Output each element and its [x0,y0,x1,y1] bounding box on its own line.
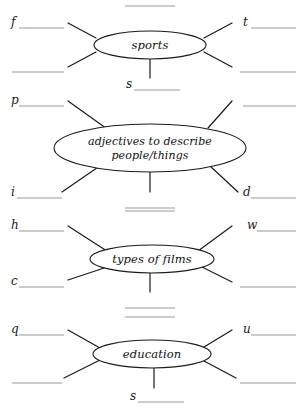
topic-label-adjectives-line2: people/things [111,149,188,162]
hint-letter-top-left: p [11,93,19,107]
spoke-top-left [68,226,110,253]
hint-letter-bottom-right: d [243,185,251,199]
spoke-top-left [68,23,96,38]
hint-letter-top-right: w [247,218,258,232]
topic-label-adjectives-line1: adjectives to describe [88,135,212,148]
cluster-education: education q u s [11,317,296,403]
hint-letter-top-left: f [10,15,18,29]
spoke-bottom-left [68,52,96,67]
hint-letter-top-right: t [243,15,248,29]
spoke-top-right [204,330,232,347]
hint-letter-bottom: s [130,389,136,403]
cluster-sports: sports f t s [10,6,296,91]
hint-letter-bottom: s [126,77,132,91]
topic-ellipse-adjectives [54,124,246,172]
cluster-adjectives: adjectives to describe people/things p i… [11,93,296,208]
topic-label-sports: sports [132,38,169,52]
spoke-top-right [204,23,232,38]
cluster-films: types of films h c w [11,211,296,308]
spoke-bottom-right [198,265,232,282]
hint-letter-top-left: q [11,322,19,336]
topic-label-education: education [123,347,181,361]
spoke-top-left [68,330,100,348]
hint-letter-bottom-left: i [11,185,15,199]
spoke-bottom-right [204,52,232,67]
topic-label-films: types of films [112,252,192,266]
spoke-bottom-left [64,360,100,378]
spoke-top-right [198,226,232,251]
hint-letter-top-right: u [243,322,251,336]
hint-letter-top-left: h [11,218,19,232]
spoke-bottom-right [210,166,238,192]
worksheet-page: sports f t s adjectives to describe [0,0,300,408]
spoke-bottom-right [204,361,236,378]
worksheet-canvas: sports f t s adjectives to describe [0,0,300,408]
hint-letter-bottom-left: c [11,274,18,288]
spoke-top-right [208,101,232,128]
